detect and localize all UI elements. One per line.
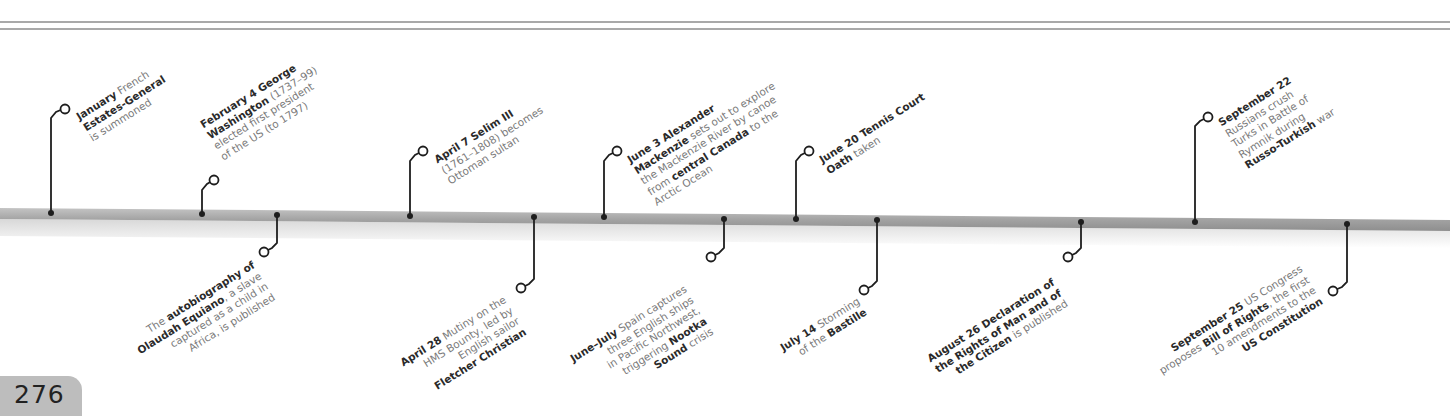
bar-dot xyxy=(721,216,727,222)
node-circle-sep25 xyxy=(1329,287,1338,296)
node-circle-jul14 xyxy=(860,286,869,295)
bar-dot xyxy=(1078,219,1084,225)
node-circle-apr7 xyxy=(419,147,428,156)
bar-dot xyxy=(1344,221,1350,227)
node-circle-jan xyxy=(61,105,70,114)
node-circle-jun3 xyxy=(613,147,622,156)
node-circle-aug26 xyxy=(1064,253,1073,262)
bar-dot xyxy=(601,214,607,220)
bar-dot xyxy=(793,216,799,222)
node-circle-feb4 xyxy=(210,176,219,185)
bar-dot xyxy=(274,212,280,218)
bar-dot xyxy=(48,210,54,216)
bar-dot xyxy=(199,211,205,217)
node-circle-equiano xyxy=(260,248,269,257)
node-circle-jun20 xyxy=(805,147,814,156)
bar-dot xyxy=(407,213,413,219)
node-circle-junjul xyxy=(707,253,716,262)
page-number: 276 xyxy=(14,380,65,409)
bar-dot xyxy=(1192,219,1198,225)
bar-dot xyxy=(874,217,880,223)
node-circle-sep22 xyxy=(1204,113,1213,122)
node-circle-apr28 xyxy=(517,284,526,293)
bar-dot xyxy=(531,214,537,220)
